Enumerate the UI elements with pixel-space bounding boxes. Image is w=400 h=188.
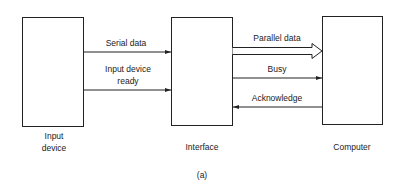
diagram-canvas: Serial data Input device ready Parallel … [0, 0, 400, 188]
input-device-label-line1: Input [45, 131, 65, 141]
parallel-data-label: Parallel data [253, 33, 301, 43]
input-device-label-line2: device [42, 143, 67, 153]
busy-label: Busy [268, 64, 288, 74]
input-device-ready-label-line2: ready [117, 76, 139, 86]
serial-data-label: Serial data [106, 38, 147, 48]
input-device-ready-label-line1: Input device [105, 64, 151, 74]
computer-block [323, 17, 383, 125]
computer-label: Computer [333, 142, 370, 152]
interface-label: Interface [185, 142, 218, 152]
figure-caption: (a) [197, 170, 208, 180]
input-device-block [23, 18, 84, 127]
acknowledge-label: Acknowledge [252, 93, 303, 103]
parallel-data-bus-arrow [233, 44, 323, 59]
interface-block [172, 18, 233, 126]
